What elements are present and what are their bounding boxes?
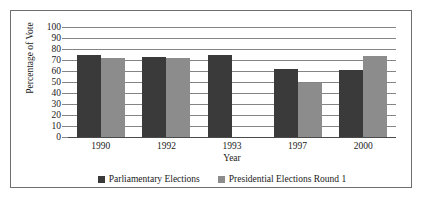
chart-frame: Percentage of Vote 100908070605040302010… [10, 10, 412, 188]
y-axis-tick-label: 100 [47, 23, 61, 33]
bar [274, 69, 298, 137]
y-axis-tick-label: 0 [56, 133, 61, 143]
legend-swatch-icon [218, 176, 225, 183]
bar-group [142, 27, 190, 137]
y-axis-tick-label: 10 [52, 122, 62, 132]
x-axis-tick-label: 1992 [136, 141, 196, 152]
legend-entry: Presidential Elections Round 1 [218, 174, 346, 184]
bar-group [339, 27, 387, 137]
bar-group [208, 27, 256, 137]
bar [298, 83, 322, 137]
legend-label: Parliamentary Elections [109, 174, 200, 184]
legend-entry: Parliamentary Elections [98, 174, 200, 184]
y-axis-tick-label: 30 [52, 100, 62, 110]
bar-chart-figure: Percentage of Vote 100908070605040302010… [0, 0, 425, 202]
plot-area [68, 27, 396, 138]
x-axis-title: Year [68, 153, 396, 164]
bar [101, 58, 125, 137]
legend-label: Presidential Elections Round 1 [229, 174, 346, 184]
y-axis-tick-label: 70 [52, 56, 62, 66]
x-axis-tick-label: 1990 [71, 141, 131, 152]
y-axis-tick-label: 20 [52, 111, 62, 121]
bar [77, 55, 101, 138]
legend-swatch-icon [98, 176, 105, 183]
y-axis-tick-label: 90 [52, 34, 62, 44]
y-axis-tick-label: 80 [52, 45, 62, 55]
bar [339, 70, 363, 137]
x-axis-line [68, 137, 396, 138]
bar [363, 56, 387, 137]
x-axis-tick-label: 1993 [202, 141, 262, 152]
y-axis-tick-label: 60 [52, 67, 62, 77]
bar-group [274, 27, 322, 137]
bar [208, 55, 232, 138]
y-axis-tick-label: 50 [52, 78, 62, 88]
bar [166, 58, 190, 137]
y-axis-tick-label: 40 [52, 89, 62, 99]
x-axis-tick-label: 2000 [333, 141, 393, 152]
chart-legend: Parliamentary ElectionsPresidential Elec… [21, 174, 423, 184]
bar-group [77, 27, 125, 137]
x-axis-tick-label: 1997 [268, 141, 328, 152]
bar [142, 57, 166, 137]
y-axis-labels: 1009080706050403020100 [31, 27, 68, 138]
